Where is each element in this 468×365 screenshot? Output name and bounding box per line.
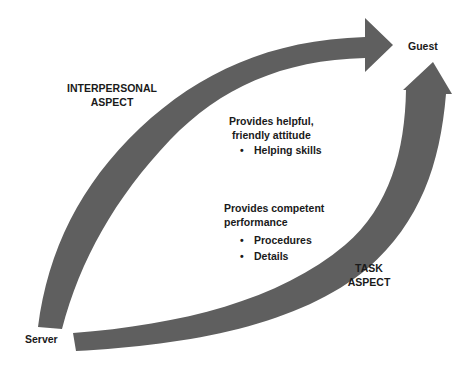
bullet-icon: • [240, 250, 254, 264]
task-desc-line1: Provides competent [224, 202, 324, 216]
bullet-procedures: •Procedures [240, 234, 312, 248]
interpersonal-aspect-label: INTERPERSONAL ASPECT [66, 82, 158, 109]
task-label-line2: ASPECT [344, 276, 394, 290]
bullet-details: •Details [240, 250, 288, 264]
arrows-layer [0, 0, 468, 365]
interpersonal-description: Provides helpful, friendly attitude [229, 115, 314, 142]
bullet-icon: • [240, 234, 254, 248]
guest-label: Guest [408, 40, 438, 54]
bullet-text: Details [254, 250, 288, 262]
task-label-line1: TASK [344, 262, 394, 276]
task-description: Provides competent performance [224, 202, 324, 229]
interpersonal-desc-line2: friendly attitude [229, 129, 314, 143]
task-desc-line2: performance [224, 216, 324, 230]
interpersonal-label-line1: INTERPERSONAL [66, 82, 158, 96]
task-aspect-label: TASK ASPECT [344, 262, 394, 289]
interpersonal-label-line2: ASPECT [66, 96, 158, 110]
bullet-text: Procedures [254, 234, 312, 246]
bullet-icon: • [240, 144, 254, 158]
server-label: Server [25, 333, 58, 347]
bullet-text: Helping skills [254, 144, 322, 156]
interpersonal-desc-line1: Provides helpful, [229, 115, 314, 129]
bullet-helping-skills: •Helping skills [240, 144, 322, 158]
